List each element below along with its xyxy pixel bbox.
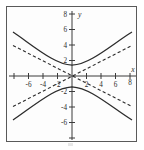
x-axis-label: x xyxy=(130,65,135,74)
x-tick-label: -4 xyxy=(40,81,46,89)
y-tick-label: -6 xyxy=(61,119,67,127)
x-tick-label: -2 xyxy=(55,81,61,89)
x-tick-label: 8 xyxy=(128,79,132,87)
x-tick-label: 6 xyxy=(114,81,118,89)
y-tick-label: -4 xyxy=(61,104,67,112)
y-tick-label: 2 xyxy=(63,57,67,65)
y-tick-label: 8 xyxy=(63,11,67,19)
plot-frame: -6 -4 -2 2 4 6 8 8 6 4 2 -2 -4 -6 y x xyxy=(6,6,137,142)
graph-canvas: -6 -4 -2 2 4 6 8 8 6 4 2 -2 -4 -6 y x xyxy=(7,7,137,142)
figure-root: -6 -4 -2 2 4 6 8 8 6 4 2 -2 -4 -6 y x xyxy=(0,0,144,150)
x-tick-label: -6 xyxy=(26,81,32,89)
x-tick-label: 4 xyxy=(99,81,103,89)
scan-artifact xyxy=(68,143,73,146)
y-axis-label: y xyxy=(77,10,82,19)
x-tick-label: 2 xyxy=(85,81,89,89)
y-tick-label: -2 xyxy=(61,88,67,96)
y-tick-label: 4 xyxy=(63,42,67,50)
y-tick-labels: 8 6 4 2 -2 -4 -6 xyxy=(61,11,67,128)
y-tick-label: 6 xyxy=(63,26,67,34)
